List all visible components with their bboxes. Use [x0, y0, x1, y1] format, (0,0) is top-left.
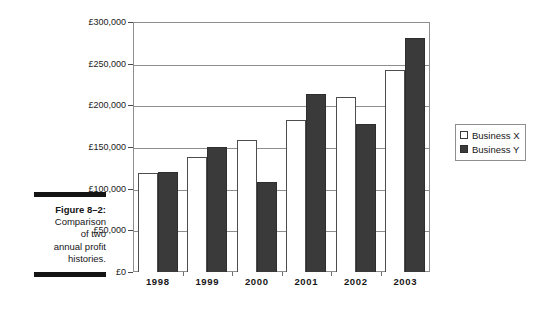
y-axis-tick-label: £200,000 [88, 100, 126, 110]
gridline [134, 190, 429, 191]
gridline [134, 106, 429, 107]
x-axis-tick-mark [183, 272, 184, 276]
y-axis-tick-mark [128, 147, 133, 148]
white-square-swatch [460, 131, 468, 139]
y-axis-tick-mark [128, 272, 133, 273]
y-axis-tick-mark [128, 105, 133, 106]
x-axis-tick-mark [282, 272, 283, 276]
y-axis-tick-mark [128, 64, 133, 65]
y-axis-labels: £0£50,000£100,000£150,000£200,000£250,00… [53, 22, 126, 272]
x-axis-tick-label-1999: 1999 [195, 276, 219, 287]
x-axis-tick-label-2001: 2001 [294, 276, 318, 287]
y-axis-tick-label: £300,000 [88, 17, 126, 27]
x-axis-tick-label-2000: 2000 [245, 276, 269, 287]
gridline [134, 65, 429, 66]
gridline [134, 148, 429, 149]
y-axis-tick-label: £50,000 [93, 225, 126, 235]
legend-item-business-y[interactable]: Business Y [460, 142, 520, 156]
x-axis-tick-mark [232, 272, 233, 276]
x-axis-tick-mark [381, 272, 382, 276]
x-axis-tick-label-1998: 1998 [146, 276, 170, 287]
gridline [134, 231, 429, 232]
y-axis-tick-label: £100,000 [88, 184, 126, 194]
y-axis-tick-label: £250,000 [88, 59, 126, 69]
x-axis-tick-mark [331, 272, 332, 276]
chart-plot-area [133, 22, 430, 272]
legend-item-business-x[interactable]: Business X [460, 128, 520, 142]
y-axis-tick-mark [128, 230, 133, 231]
y-axis-tick-mark [128, 22, 133, 23]
x-axis-tick-label-2003: 2003 [393, 276, 417, 287]
x-axis-tick-label-2002: 2002 [344, 276, 368, 287]
y-axis-tick-label: £150,000 [88, 142, 126, 152]
legend-item-label: Business Y [472, 144, 519, 155]
legend-item-label: Business X [472, 130, 520, 141]
x-axis-labels: 199819992000200120022003 [133, 276, 430, 292]
dark-square-swatch [460, 145, 468, 153]
y-axis-tick-label: £0 [116, 267, 126, 277]
chart-legend: Business XBusiness Y [455, 124, 526, 161]
caption-rule-bottom [34, 272, 106, 277]
y-axis-tick-mark [128, 189, 133, 190]
